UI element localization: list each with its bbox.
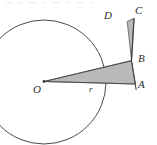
label-point-d: D <box>104 10 112 21</box>
label-point-c: C <box>135 5 142 16</box>
center-point-marker <box>43 80 46 83</box>
shaded-sector-oab <box>44 61 136 85</box>
label-radius-r: r <box>89 84 93 95</box>
label-point-b: B <box>138 53 145 64</box>
label-point-a: A <box>138 79 145 90</box>
scan-noise-artifact <box>6 2 94 3</box>
geometry-figure: O r A B C D <box>0 0 157 145</box>
label-center-o: O <box>33 84 41 95</box>
figure-canvas <box>0 0 157 145</box>
